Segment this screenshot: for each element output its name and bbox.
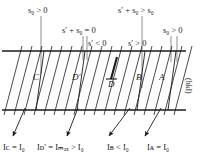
label-sprime-lt-0: s′ < 0 xyxy=(88,39,106,48)
band-letter-b: B xyxy=(136,73,142,82)
beam-arrows xyxy=(13,108,161,136)
label-s0-right: s₀ > 0 xyxy=(163,26,183,35)
band-letter-c: C xyxy=(33,73,39,82)
label-intensity-c: Iᴄ = I₀ xyxy=(3,143,25,152)
band-letter-a: A xyxy=(159,73,165,82)
label-sprime-plus-s0-eq-0: s′ + s₀ = 0 xyxy=(62,26,96,35)
marker-planes xyxy=(36,51,176,110)
label-intensity-b: Iʙ < I₀ xyxy=(107,143,129,152)
band-letter-d-prime: D′ xyxy=(72,73,80,82)
figure-canvas: s₀ > 0 s′ + s₀ = 0 s′ + s₀ > s₀ s₀ > 0 s… xyxy=(0,0,204,168)
label-s0-left: s₀ > 0 xyxy=(28,6,48,15)
label-intensity-d-prime: Iᴅ′ = Iₘₐₓ > I₀ xyxy=(37,143,84,152)
d-spacing-marker xyxy=(106,57,117,79)
label-sprime-gt-0: s′ > 0 xyxy=(128,39,146,48)
label-intensity-a: Iᴀ = I₀ xyxy=(147,143,169,152)
band-letter-d: D xyxy=(108,80,115,89)
label-sprime-plus-s0-gt-s0: s′ + s₀ > s₀ xyxy=(118,6,154,15)
label-hkl-plane: (hkl) xyxy=(184,78,192,94)
